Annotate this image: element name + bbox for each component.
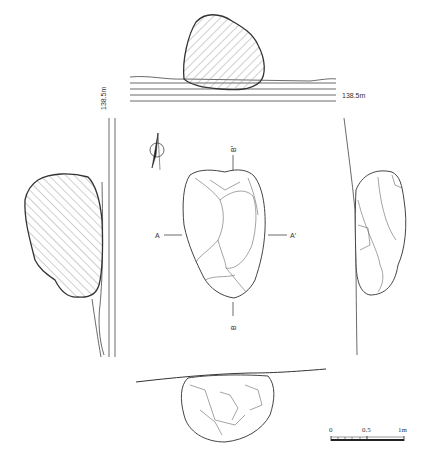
bottom-section-view: [136, 369, 326, 442]
section-label-b-prime: B′: [230, 145, 237, 152]
north-arrow-icon: [150, 133, 164, 170]
stone-drawing: 138.5m 138.5m A A′ B′ B: [0, 0, 438, 459]
scale-tick-0: 0: [329, 426, 333, 434]
section-label-a-prime: A′: [290, 232, 297, 239]
section-label-b: B: [230, 325, 237, 330]
top-section-view: 138.5m: [130, 15, 366, 101]
elevation-label-top: 138.5m: [342, 92, 366, 99]
section-label-a: A: [155, 232, 160, 239]
scale-bar: 0 0.5 1m: [329, 426, 408, 441]
scale-tick-half: 0.5: [362, 426, 371, 434]
plan-view: A A′ B′ B: [155, 145, 297, 330]
left-section-view: 138.5m: [25, 86, 115, 357]
elevation-label-left: 138.5m: [100, 86, 107, 110]
right-side-view: [344, 118, 406, 355]
scale-tick-1m: 1m: [398, 426, 408, 434]
